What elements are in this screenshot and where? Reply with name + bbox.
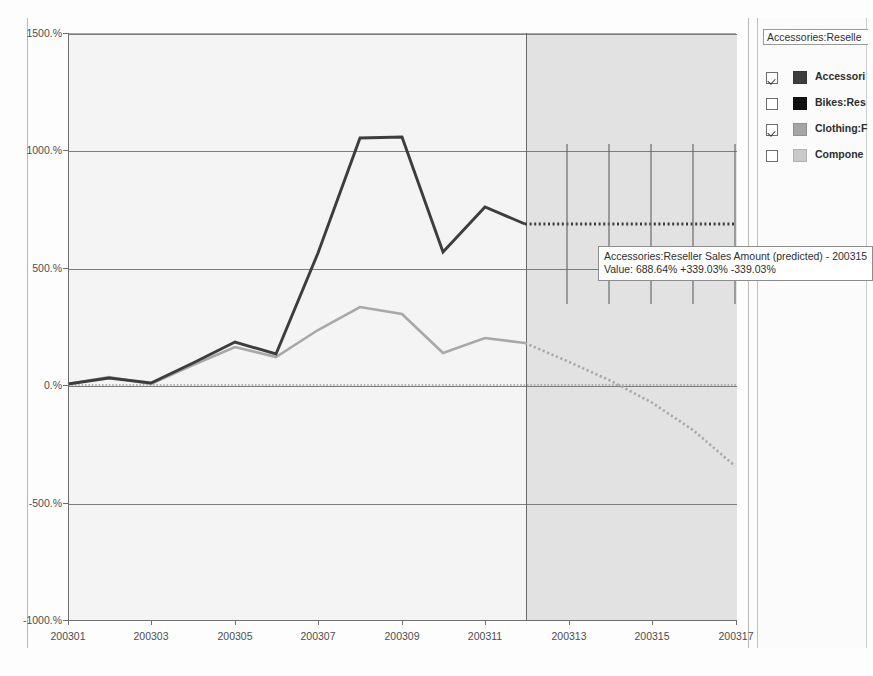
x-tickmark-200303 — [151, 620, 152, 625]
x-tickmark-200317 — [736, 620, 737, 625]
x-tickmark-200309 — [402, 620, 403, 625]
x-tickmark-200315 — [652, 620, 653, 625]
y-tick-label-0: 0.% — [0, 379, 62, 391]
y-tickmark-500 — [63, 268, 68, 269]
legend-color-swatch-clothing — [793, 123, 807, 136]
legend-item-list: Accessori Bikes:Res Clothing:F Compone — [763, 68, 873, 172]
legend-color-swatch-bikes — [793, 97, 807, 110]
x-tick-label-200313: 200313 — [551, 630, 586, 642]
legend-item-accessories[interactable]: Accessori — [763, 68, 873, 94]
x-tickmark-200307 — [318, 620, 319, 625]
tooltip-line-title: Accessories:Reseller Sales Amount (predi… — [604, 250, 867, 263]
y-tick-label-1000: 1000.% — [0, 144, 62, 156]
legend-color-swatch-accessories — [793, 71, 807, 84]
legend-series-selector[interactable]: Accessories:Reselle — [763, 29, 868, 45]
y-tickmark-1000 — [63, 150, 68, 151]
y-tick-label-500: 500.% — [0, 262, 62, 274]
tooltip-line-value: Value: 688.64% +339.03% -339.03% — [604, 263, 867, 276]
y-axis-line — [68, 33, 69, 621]
series-canvas — [68, 33, 736, 620]
x-tickmark-200301 — [68, 620, 69, 625]
x-tick-label-200303: 200303 — [133, 630, 168, 642]
legend-label-bikes: Bikes:Res — [815, 96, 873, 108]
legend-checkbox-clothing[interactable] — [766, 124, 778, 136]
data-point-tooltip: Accessories:Reseller Sales Amount (predi… — [598, 246, 873, 281]
x-tickmark-200305 — [235, 620, 236, 625]
x-tick-label-200309: 200309 — [384, 630, 419, 642]
x-tick-label-200305: 200305 — [217, 630, 252, 642]
legend-item-clothing[interactable]: Clothing:F — [763, 120, 873, 146]
legend-color-swatch-components — [793, 149, 807, 162]
x-tick-label-200317: 200317 — [718, 630, 753, 642]
legend-label-components: Compone — [815, 148, 873, 160]
x-tick-label-200311: 200311 — [468, 630, 502, 642]
series-line-clothing-historical — [68, 307, 525, 384]
x-tickmark-200313 — [569, 620, 570, 625]
y-tick-label-minus500: -500.% — [0, 497, 62, 509]
legend-panel[interactable]: Accessories:Reselle Accessori Bikes:Res … — [758, 18, 866, 648]
legend-item-bikes[interactable]: Bikes:Res — [763, 94, 873, 120]
y-tickmark-0 — [63, 385, 68, 386]
x-tick-label-200307: 200307 — [300, 630, 335, 642]
chart-area[interactable]: 1500.% 1000.% 500.% 0.% -500.% -1000.% 2… — [0, 0, 760, 676]
legend-item-components[interactable]: Compone — [763, 146, 873, 172]
x-tick-label-200301: 200301 — [50, 630, 85, 642]
y-tickmark-1500 — [63, 33, 68, 34]
legend-label-clothing: Clothing:F — [815, 122, 873, 134]
x-tick-label-200315: 200315 — [634, 630, 669, 642]
series-line-clothing-predicted — [525, 343, 735, 466]
legend-checkbox-components[interactable] — [766, 150, 778, 162]
y-tick-label-minus1000: -1000.% — [0, 614, 62, 626]
legend-checkbox-accessories[interactable] — [766, 72, 778, 84]
y-tick-label-1500: 1500.% — [0, 27, 62, 39]
legend-checkbox-bikes[interactable] — [766, 98, 778, 110]
x-tickmark-200311 — [485, 620, 486, 625]
y-tickmark-minus500 — [63, 503, 68, 504]
legend-label-accessories: Accessori — [815, 70, 873, 82]
